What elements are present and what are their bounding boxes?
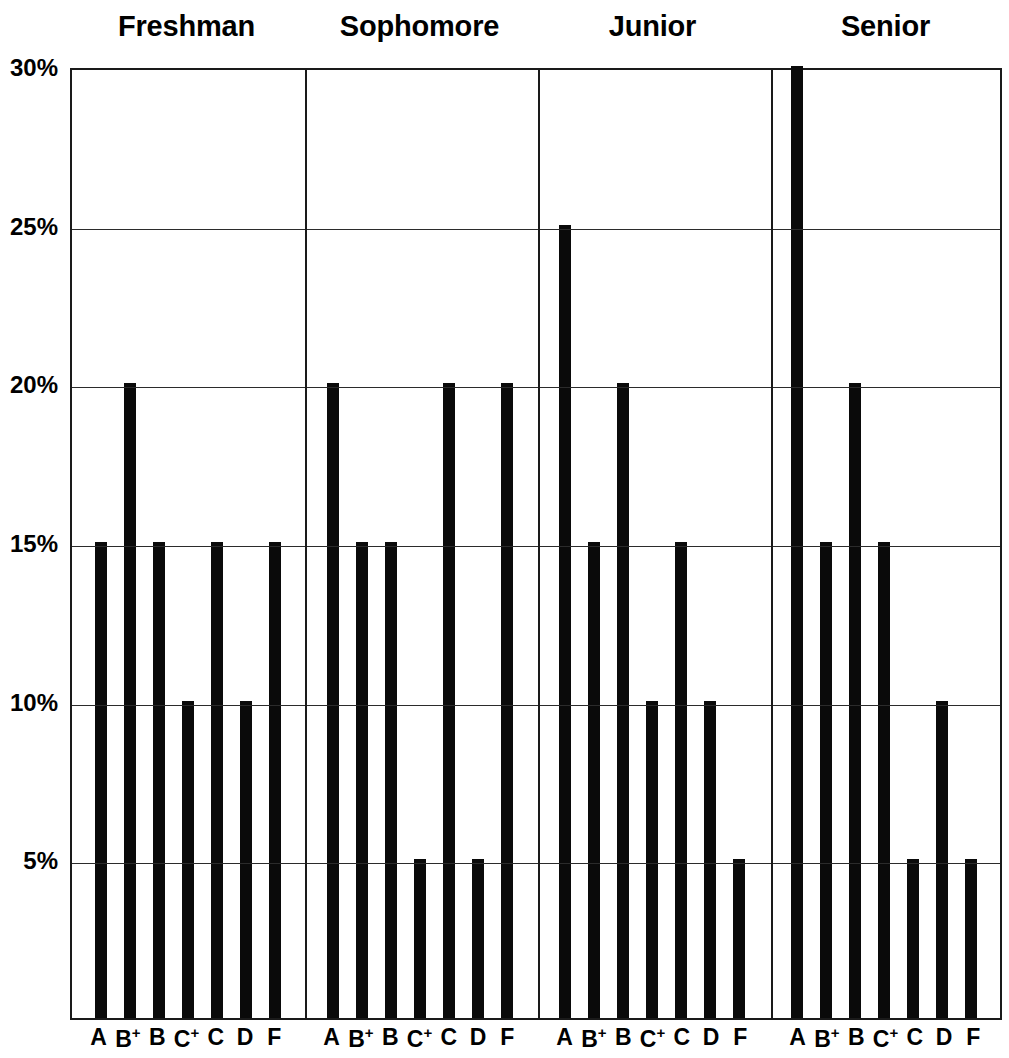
y-axis-tick-label: 15%	[10, 530, 58, 558]
x-axis-tick-label: C+	[413, 1022, 425, 1058]
bar[interactable]	[153, 542, 165, 1018]
bar-panel-freshman	[72, 70, 304, 1018]
x-axis-tick-label: D	[472, 1022, 484, 1058]
gridline	[72, 863, 1000, 864]
bar[interactable]	[849, 383, 861, 1018]
bar[interactable]	[327, 383, 339, 1018]
x-axis-tick-label: B	[384, 1022, 396, 1058]
x-axis-tick-label: C+	[646, 1022, 658, 1058]
bar[interactable]	[124, 383, 136, 1018]
y-axis-tick-label: 20%	[10, 371, 58, 399]
x-axis-tick-label: C	[676, 1022, 688, 1058]
x-axis-tick-label: B+	[588, 1022, 600, 1058]
bar[interactable]	[820, 542, 832, 1018]
bar[interactable]	[211, 542, 223, 1018]
bar[interactable]	[646, 701, 658, 1018]
x-axis-tick-label: B	[850, 1022, 862, 1058]
x-axis-tick-label: A	[326, 1022, 338, 1058]
bar[interactable]	[182, 701, 194, 1018]
x-label-panel-freshman: AB+BC+CDF	[70, 1022, 303, 1058]
x-axis-tick-labels: AB+BC+CDFAB+BC+CDFAB+BC+CDFAB+BC+CDF	[70, 1022, 1002, 1058]
panel-title-freshman: Freshman	[70, 0, 303, 68]
gridline	[72, 387, 1000, 388]
bar[interactable]	[240, 701, 252, 1018]
x-axis-tick-label: F	[967, 1022, 979, 1058]
panel-title-sophomore: Sophomore	[303, 0, 536, 68]
bar[interactable]	[472, 859, 484, 1018]
panel-title-junior: Junior	[536, 0, 769, 68]
x-axis-tick-label: C	[909, 1022, 921, 1058]
grade-distribution-chart: Freshman Sophomore Junior Senior 30%25%2…	[0, 0, 1009, 1058]
bar[interactable]	[907, 859, 919, 1018]
x-axis-tick-label: F	[734, 1022, 746, 1058]
gridline	[72, 705, 1000, 706]
bar[interactable]	[443, 383, 455, 1018]
x-axis-tick-label: A	[559, 1022, 571, 1058]
bar-panel-senior	[768, 70, 1000, 1018]
x-axis-tick-label: B+	[122, 1022, 134, 1058]
bar-panel-sophomore	[304, 70, 536, 1018]
bar[interactable]	[733, 859, 745, 1018]
bar[interactable]	[95, 542, 107, 1018]
x-axis-tick-label: D	[239, 1022, 251, 1058]
bar[interactable]	[501, 383, 513, 1018]
bar[interactable]	[588, 542, 600, 1018]
x-axis-tick-label: A	[93, 1022, 105, 1058]
bar[interactable]	[878, 542, 890, 1018]
y-axis-tick-label: 25%	[10, 213, 58, 241]
plot-area	[70, 68, 1002, 1020]
bar[interactable]	[385, 542, 397, 1018]
panel-title-row: Freshman Sophomore Junior Senior	[70, 0, 1002, 68]
x-axis-tick-label: C	[443, 1022, 455, 1058]
x-axis-tick-label: C	[210, 1022, 222, 1058]
bar[interactable]	[269, 542, 281, 1018]
x-axis-tick-label: D	[705, 1022, 717, 1058]
bar[interactable]	[559, 225, 571, 1018]
x-axis-tick-label: B+	[821, 1022, 833, 1058]
bar-panels	[72, 70, 1000, 1018]
y-axis-tick-label: 30%	[10, 54, 58, 82]
gridline	[72, 229, 1000, 230]
bar[interactable]	[675, 542, 687, 1018]
y-axis-tick-label: 5%	[23, 847, 58, 875]
y-axis: 30%25%20%15%10%5%	[0, 0, 66, 1058]
panel-divider	[305, 70, 307, 1018]
bar[interactable]	[936, 701, 948, 1018]
bar[interactable]	[414, 859, 426, 1018]
x-axis-tick-label: D	[938, 1022, 950, 1058]
gridline	[72, 546, 1000, 547]
x-label-panel-sophomore: AB+BC+CDF	[303, 1022, 536, 1058]
panel-divider	[771, 70, 773, 1018]
x-axis-tick-label: A	[792, 1022, 804, 1058]
bar[interactable]	[617, 383, 629, 1018]
bar[interactable]	[965, 859, 977, 1018]
x-axis-tick-label: F	[501, 1022, 513, 1058]
bar-panel-junior	[536, 70, 768, 1018]
x-axis-tick-label: C+	[180, 1022, 192, 1058]
x-label-panel-senior: AB+BC+CDF	[769, 1022, 1002, 1058]
bar[interactable]	[356, 542, 368, 1018]
y-axis-tick-label: 10%	[10, 689, 58, 717]
x-label-panel-junior: AB+BC+CDF	[536, 1022, 769, 1058]
x-axis-tick-label: B	[617, 1022, 629, 1058]
bar[interactable]	[791, 66, 803, 1018]
x-axis-tick-label: B	[151, 1022, 163, 1058]
panel-title-senior: Senior	[769, 0, 1002, 68]
bar[interactable]	[704, 701, 716, 1018]
x-axis-tick-label: B+	[355, 1022, 367, 1058]
x-axis-tick-label: C+	[879, 1022, 891, 1058]
x-axis-tick-label: F	[268, 1022, 280, 1058]
panel-divider	[538, 70, 540, 1018]
